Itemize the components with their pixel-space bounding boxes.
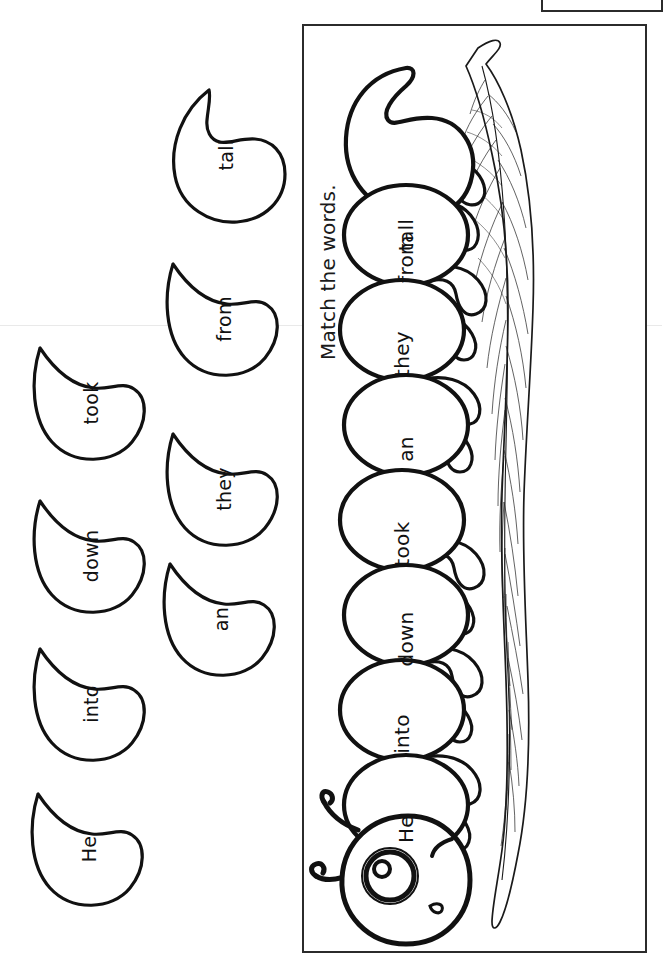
cutout-label: an	[210, 607, 232, 631]
cutout-piece-an[interactable]: an	[160, 558, 282, 680]
cutout-label: He	[78, 836, 100, 863]
segment-label-into: into	[390, 714, 414, 754]
cutout-label: into	[80, 685, 102, 723]
cutout-piece-down[interactable]: down	[30, 495, 152, 617]
cheek-mark	[430, 904, 442, 913]
cutout-label-wrap: tall	[163, 84, 289, 226]
cutout-label: from	[213, 296, 235, 341]
cutout-piece-into[interactable]: into	[30, 643, 152, 765]
cutout-label: tall	[215, 140, 237, 171]
eye-iris	[366, 852, 414, 900]
segment-label-took: took	[390, 521, 414, 566]
cutout-label-wrap: down	[30, 495, 152, 617]
cutout-label-wrap: they	[163, 428, 285, 550]
cutout-label-wrap: into	[30, 643, 152, 765]
cutout-label-wrap: took	[30, 342, 152, 464]
cutout-label-wrap: He	[28, 788, 150, 910]
cutout-label-wrap: an	[160, 558, 282, 680]
segment-label-an: an	[394, 436, 418, 462]
segment-label-from: from	[394, 235, 418, 283]
cutout-label-wrap: from	[163, 258, 285, 380]
caterpillar-illustration	[302, 24, 647, 953]
cutout-piece-tall[interactable]: tall	[163, 84, 289, 226]
segment-label-he: He	[394, 815, 418, 843]
cutout-piece-took[interactable]: took	[30, 342, 152, 464]
cutout-label: took	[80, 382, 102, 425]
cutout-label: down	[80, 530, 102, 582]
cutout-piece-they[interactable]: they	[163, 428, 285, 550]
cutout-piece-from[interactable]: from	[163, 258, 285, 380]
segment-label-they: they	[390, 331, 414, 377]
segment-label-down: down	[394, 611, 418, 666]
clipped-corner-box	[541, 0, 663, 12]
eye-pupil	[374, 861, 390, 877]
cutout-piece-he[interactable]: He	[28, 788, 150, 910]
cutout-label: they	[213, 467, 235, 511]
